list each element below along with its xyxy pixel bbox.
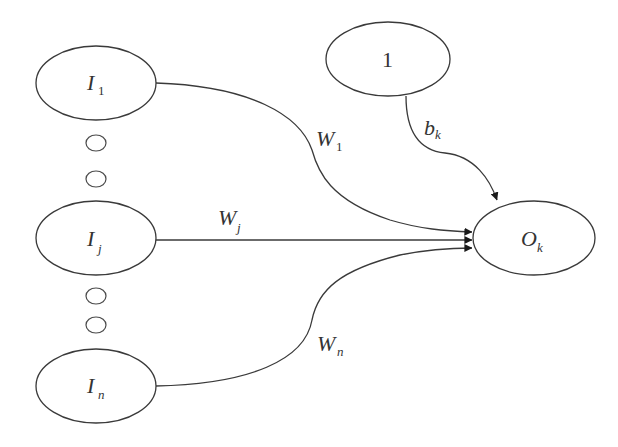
wn-subscript: n	[337, 344, 344, 359]
edge-w1	[156, 83, 472, 232]
bk-label: b	[424, 115, 435, 140]
input-node-1	[36, 46, 156, 120]
input-node-n	[36, 349, 156, 423]
bias-label: 1	[382, 47, 393, 72]
neuron-diagram: I 1 I j I n 1 O k W 1 W j W n b k	[0, 0, 618, 447]
input-node-j	[36, 201, 156, 275]
input-1-subscript: 1	[98, 83, 105, 98]
w1-label: W	[316, 126, 336, 151]
wn-label: W	[317, 331, 337, 356]
diagram-svg: I 1 I j I n 1 O k W 1 W j W n b k	[0, 0, 618, 447]
wj-label: W	[218, 205, 238, 230]
ellipsis-dot	[86, 135, 106, 151]
edge-bk	[406, 96, 497, 200]
output-subscript: k	[537, 240, 543, 255]
edge-wn	[156, 248, 472, 386]
output-label: O	[521, 226, 537, 251]
w1-subscript: 1	[336, 139, 343, 154]
ellipsis-dot	[86, 288, 106, 304]
ellipsis-dot	[86, 317, 106, 333]
ellipsis-dot	[86, 171, 106, 187]
input-n-subscript: n	[98, 387, 105, 402]
bk-subscript: k	[435, 127, 441, 142]
